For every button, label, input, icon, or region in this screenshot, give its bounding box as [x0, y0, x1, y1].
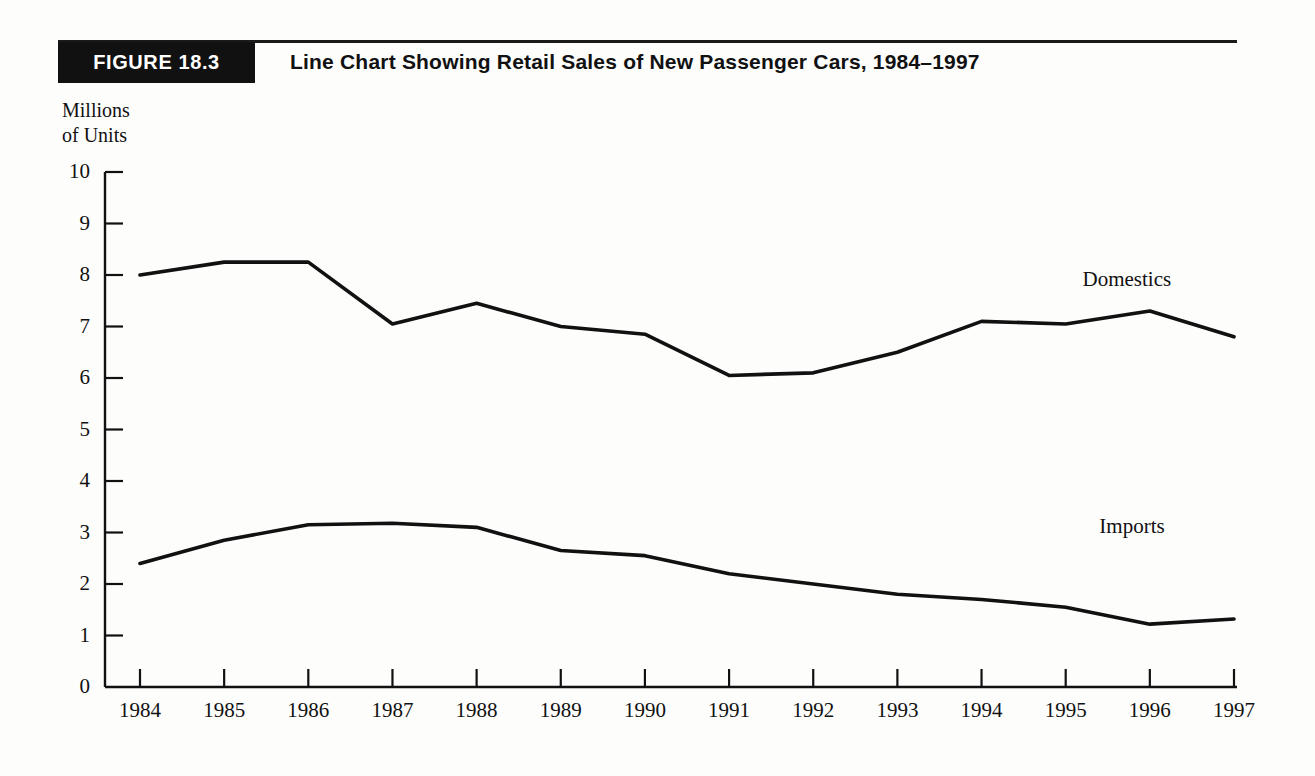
x-tick-label: 1984	[100, 700, 180, 721]
x-tick-label: 1992	[773, 700, 853, 721]
series-label-domestics: Domestics	[1083, 269, 1172, 290]
axes-group	[105, 172, 1237, 687]
x-tick-label: 1986	[268, 700, 348, 721]
y-tick-label: 1	[56, 625, 90, 646]
y-tick-label: 10	[56, 161, 90, 182]
x-tick-label: 1994	[942, 700, 1022, 721]
x-tick-label: 1989	[521, 700, 601, 721]
y-tick-label: 3	[56, 522, 90, 543]
x-tick-label: 1995	[1026, 700, 1106, 721]
data-series-group	[140, 262, 1234, 624]
line-chart-plot: 012345678910 198419851986198719881989199…	[0, 0, 1315, 776]
x-tick-label: 1985	[184, 700, 264, 721]
y-tick-label: 5	[56, 419, 90, 440]
figure-container: FIGURE 18.3 Line Chart Showing Retail Sa…	[0, 0, 1315, 776]
chart-svg	[0, 0, 1315, 776]
series-line-imports	[140, 523, 1234, 624]
y-tick-label: 4	[56, 470, 90, 491]
y-tick-label: 2	[56, 573, 90, 594]
series-label-imports: Imports	[1099, 516, 1164, 537]
x-tick-label: 1988	[437, 700, 517, 721]
x-tick-label: 1991	[689, 700, 769, 721]
x-tick-label: 1996	[1110, 700, 1190, 721]
y-tick-marks	[105, 172, 123, 636]
x-tick-label: 1997	[1194, 700, 1274, 721]
x-tick-label: 1990	[605, 700, 685, 721]
series-line-domestics	[140, 262, 1234, 375]
y-tick-label: 0	[56, 676, 90, 697]
x-tick-label: 1987	[352, 700, 432, 721]
y-tick-label: 8	[56, 264, 90, 285]
x-tick-marks	[140, 669, 1234, 687]
x-tick-label: 1993	[857, 700, 937, 721]
y-tick-label: 6	[56, 367, 90, 388]
y-tick-label: 7	[56, 316, 90, 337]
y-tick-label: 9	[56, 213, 90, 234]
